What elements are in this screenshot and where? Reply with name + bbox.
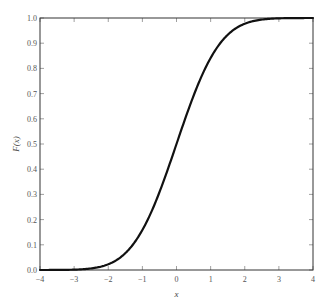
x-tick-label: −4 (36, 275, 45, 284)
x-tick-label: 1 (209, 275, 213, 284)
y-tick-label: 1.0 (27, 14, 37, 23)
x-tick-label: 2 (243, 275, 247, 284)
y-tick-label: 0.5 (27, 140, 37, 149)
y-tick-label: 0.1 (27, 241, 37, 250)
y-tick-label: 0.7 (27, 90, 37, 99)
y-tick-label: 0.6 (27, 115, 37, 124)
y-tick-label: 0.8 (27, 64, 37, 73)
x-tick-label: −2 (104, 275, 113, 284)
y-tick-label: 0.4 (27, 165, 37, 174)
x-tick-label: 3 (277, 275, 281, 284)
y-tick-label: 0.2 (27, 216, 37, 225)
x-axis-label: x (174, 289, 179, 299)
y-axis-label: F(x) (11, 136, 21, 153)
cdf-curve (40, 18, 313, 270)
y-tick-label: 0.9 (27, 39, 37, 48)
x-tick-label: −1 (138, 275, 147, 284)
x-tick-label: 0 (175, 275, 179, 284)
y-tick-label: 0.3 (27, 190, 37, 199)
tick-labels: −4−3−2−1012340.00.10.20.30.40.50.60.70.8… (27, 14, 315, 284)
x-tick-label: 4 (311, 275, 315, 284)
cdf-chart: −4−3−2−1012340.00.10.20.30.40.50.60.70.8… (0, 0, 328, 303)
y-tick-label: 0.0 (27, 266, 37, 275)
x-tick-label: −3 (70, 275, 79, 284)
